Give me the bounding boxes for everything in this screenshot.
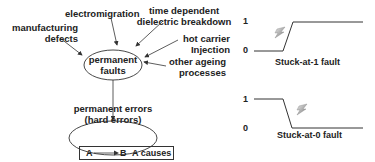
cause-line1: time dependent <box>134 5 234 16</box>
node-line2: (hard errors) <box>69 114 157 125</box>
cause-line1: manufacturing <box>8 22 78 33</box>
legend-box: A B A causes B <box>79 146 174 160</box>
stuck-at-0-caption: Stuck-at-0 fault <box>277 130 342 140</box>
legend-b: B <box>120 147 127 159</box>
cause-line2: processes <box>155 67 226 78</box>
cause-time-dependent-dielectric-breakdown: time dependent dielectric breakdown <box>134 5 234 27</box>
legend-text: A causes B <box>132 147 173 162</box>
cause-line2: dielectric breakdown <box>134 16 234 27</box>
stuck-at-1-waveform <box>254 22 363 51</box>
stuck-at-1-caption: Stuck-at-1 fault <box>275 57 340 67</box>
legend-a: A <box>86 147 93 159</box>
permanent-errors-label: permanent errors (hard errors) <box>69 103 157 125</box>
stuck-at-0-waveform <box>254 99 363 128</box>
stuck-at-1-level-low: 0 <box>243 45 248 55</box>
cause-line1: other ageing <box>155 56 226 67</box>
cause-line1: hot carrier <box>160 33 230 44</box>
cause-line2: defects <box>8 33 78 44</box>
cause-line2: Injection <box>160 44 230 55</box>
permanent-faults-label: permanent faults <box>84 54 142 76</box>
lightning-icon <box>297 104 307 115</box>
lightning-icon <box>275 27 285 38</box>
legend-arrow-icon <box>93 147 123 159</box>
stuck-at-0-level-high: 1 <box>243 94 248 104</box>
stuck-at-1-level-high: 1 <box>243 16 248 26</box>
node-line1: permanent errors <box>69 103 157 114</box>
cause-electromigration: electromigration <box>65 8 139 19</box>
node-line2: faults <box>84 65 142 76</box>
cause-other-ageing-processes: other ageing processes <box>155 56 226 78</box>
stuck-at-0-level-low: 0 <box>243 123 248 133</box>
cause-hot-carrier-injection: hot carrier Injection <box>160 33 230 55</box>
cause-manufacturing-defects: manufacturing defects <box>8 22 78 44</box>
node-line1: permanent <box>84 54 142 65</box>
